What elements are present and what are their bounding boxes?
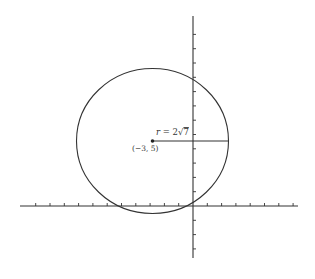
center-point (151, 139, 155, 143)
radicand: 7 (183, 127, 188, 137)
center-label: (−3, 5) (132, 144, 159, 153)
coordinate-plane-figure: r = 2√7 (−3, 5) (0, 0, 315, 279)
radius-label: r = 2√7 (156, 127, 189, 137)
